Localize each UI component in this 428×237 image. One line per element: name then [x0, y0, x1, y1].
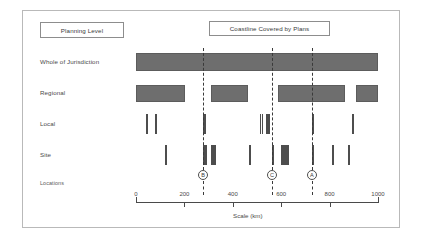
figure-frame — [22, 10, 400, 228]
coastline-header: Coastline Covered by Plans — [209, 21, 330, 36]
scale-caption: Scale (km) — [233, 212, 263, 219]
planning-level-header: Planning Level — [40, 22, 124, 38]
